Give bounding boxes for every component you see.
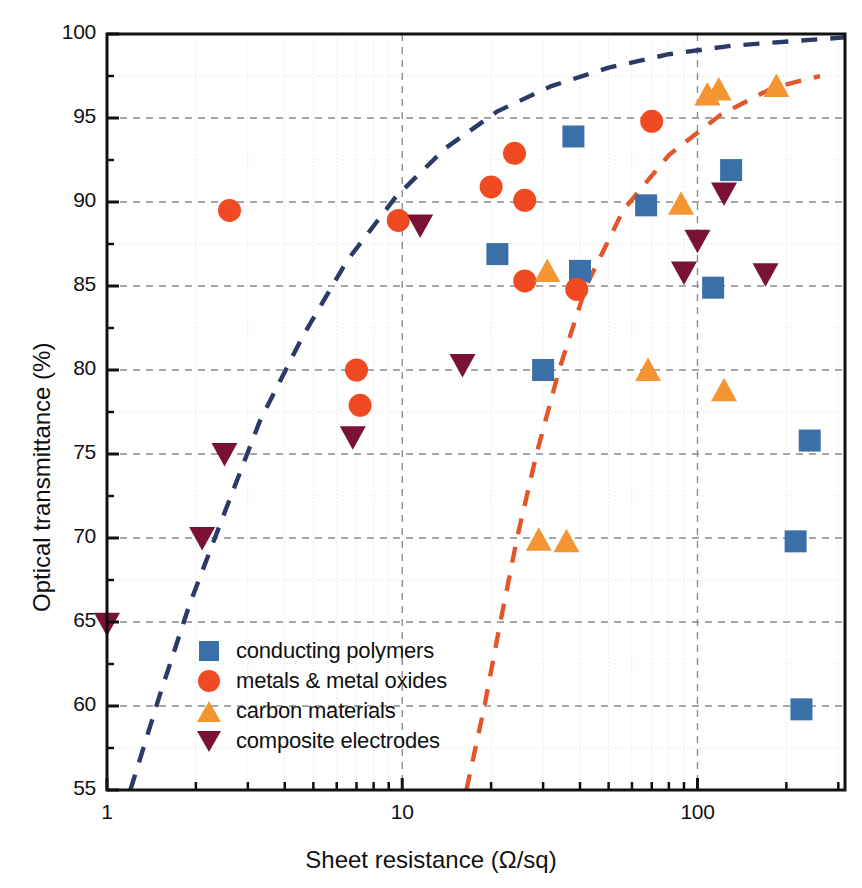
y-tick-label: 90 [50,188,96,212]
data-point-circle[interactable] [503,142,526,165]
legend-item[interactable]: composite electrodes [196,726,496,756]
y-tick-label: 75 [50,440,96,464]
x-axis-title: Sheet resistance (Ω/sq) [0,846,862,874]
data-point-square[interactable] [790,698,812,720]
y-tick-label: 65 [50,608,96,632]
data-point-square[interactable] [702,277,724,299]
data-point-square[interactable] [799,430,821,452]
data-point-circle[interactable] [345,359,368,382]
x-tick-label: 1 [77,800,137,824]
data-point-circle[interactable] [218,199,241,222]
legend-item[interactable]: carbon materials [196,696,496,726]
x-tick-label: 10 [372,800,432,824]
legend-label: metals & metal oxides [236,668,447,694]
y-tick-label: 60 [50,692,96,716]
y-tick-label: 95 [50,104,96,128]
data-point-circle[interactable] [565,278,588,301]
y-axis-title: Optical transmittance (%) [28,343,56,612]
y-tick-label: 80 [50,356,96,380]
y-tick-label: 70 [50,524,96,548]
legend-marker-triangle-down-icon [196,728,222,754]
y-tick-label: 55 [50,776,96,800]
data-point-circle[interactable] [640,110,663,133]
data-point-circle[interactable] [480,175,503,198]
legend-marker-circle-icon [196,668,222,694]
legend-item[interactable]: metals & metal oxides [196,666,496,696]
data-point-square[interactable] [785,530,807,552]
legend-item[interactable]: conducting polymers [196,636,496,666]
legend-label: composite electrodes [236,728,440,754]
scatter-chart-figure: 556065707580859095100 110100 Optical tra… [0,0,862,888]
chart-legend: conducting polymersmetals & metal oxides… [196,636,496,756]
legend-label: conducting polymers [236,638,434,664]
y-tick-label: 100 [50,20,96,44]
legend-label: carbon materials [236,698,395,724]
legend-marker-square-icon [196,638,222,664]
data-point-circle[interactable] [513,189,536,212]
data-point-square[interactable] [635,194,657,216]
data-point-square[interactable] [532,359,554,381]
data-point-circle[interactable] [349,394,372,417]
data-point-square[interactable] [720,159,742,181]
data-point-circle[interactable] [513,269,536,292]
data-point-square[interactable] [486,243,508,265]
y-tick-label: 85 [50,272,96,296]
legend-marker-triangle-up-icon [196,698,222,724]
data-point-square[interactable] [562,125,584,147]
data-point-circle[interactable] [387,209,410,232]
x-tick-label: 100 [667,800,727,824]
